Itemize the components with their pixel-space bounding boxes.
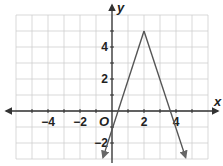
x-tick-label: −4 [41,115,55,129]
origin-label: O [99,114,109,129]
y-tick-label: 4 [101,40,108,54]
x-axis-label: x [213,94,222,109]
coordinate-plane: −4−224−224 x y O [0,0,223,166]
y-axis-label: y [116,0,125,15]
axes [6,5,218,163]
y-tick-label: 2 [101,72,108,86]
x-tick-label: 2 [141,115,148,129]
x-tick-label: −2 [73,115,87,129]
